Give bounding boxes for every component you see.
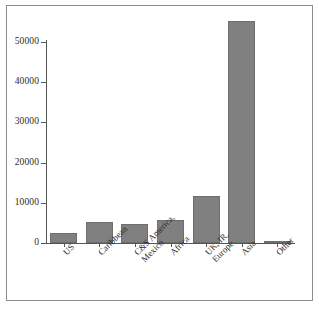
y-axis-tick: [41, 82, 46, 83]
y-axis-tick: [41, 122, 46, 123]
y-axis-tick: [41, 203, 46, 204]
y-axis-tick-label: 40000: [15, 77, 39, 87]
y-axis-tick-labels: 01000020000300004000050000: [0, 0, 39, 312]
y-axis-tick-label: 20000: [15, 158, 39, 168]
y-axis-tick: [41, 163, 46, 164]
y-axis-tick-label: 0: [34, 238, 39, 248]
figure-border: [6, 5, 313, 301]
y-axis-line: [46, 40, 47, 244]
y-axis-tick-label: 50000: [15, 37, 39, 47]
y-axis-tick-label: 10000: [15, 198, 39, 208]
y-axis-tick-label: 30000: [15, 117, 39, 127]
bar-chart-figure: 01000020000300004000050000 USCaribbeanC&…: [0, 0, 319, 312]
bar: [50, 233, 77, 243]
bar: [228, 21, 255, 243]
y-axis-tick: [41, 42, 46, 43]
y-axis-tick: [41, 243, 46, 244]
